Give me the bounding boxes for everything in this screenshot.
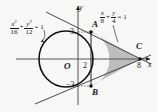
ellipse-first-fraction: x2 16 <box>10 19 19 36</box>
tick-label-y-negative: −3 <box>66 81 75 89</box>
ellipse-plus-operator: + <box>20 24 24 31</box>
tick-label-x-point-c: 8 <box>137 62 141 70</box>
ellipse-equals: = 1 <box>34 24 43 31</box>
point-label-B: B <box>92 88 98 97</box>
line-den2: 4 <box>111 17 117 25</box>
geometry-figure: x2 16 + y2 12 = 1 x 8 + y 4 = 1 A B C O … <box>0 0 157 112</box>
y-axis-label: y <box>79 4 83 12</box>
line-plus-operator: + <box>106 14 110 21</box>
ellipse-num1: x2 <box>10 19 18 28</box>
line-num1: x <box>100 10 105 17</box>
leader-line-equation <box>113 25 118 42</box>
ellipse-den1: 16 <box>10 28 19 36</box>
point-label-A: A <box>92 20 98 29</box>
ellipse-den2: 12 <box>24 28 33 36</box>
line-num2: y <box>111 10 116 17</box>
ellipse-second-fraction: y2 12 <box>24 19 33 36</box>
line-den1: 8 <box>100 17 106 25</box>
line-equation: x 8 + y 4 = 1 <box>99 10 127 25</box>
point-label-C: C <box>136 42 142 51</box>
tick-label-x-chord: 2 <box>83 62 87 70</box>
point-A-marker <box>89 30 93 34</box>
ellipse-num1-exponent: 2 <box>14 19 17 24</box>
x-axis-label: x <box>148 61 152 69</box>
line-first-fraction: x 8 <box>100 10 106 25</box>
figure-canvas <box>0 0 157 112</box>
tick-label-y-positive: 3 <box>70 28 74 36</box>
ellipse-num2-exponent: 2 <box>29 19 32 24</box>
line-second-fraction: y 4 <box>111 10 117 25</box>
line-equals: = 1 <box>117 14 126 21</box>
ellipse-equation: x2 16 + y2 12 = 1 <box>9 19 44 36</box>
ellipse-num2: y2 <box>25 19 33 28</box>
point-label-O: O <box>64 62 71 71</box>
